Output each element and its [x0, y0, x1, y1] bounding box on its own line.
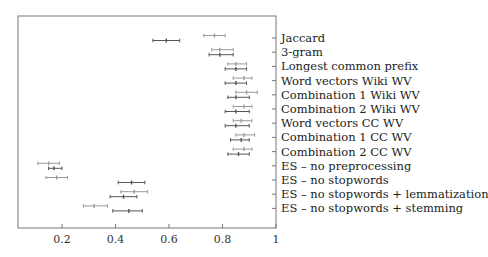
- error-bar: [225, 67, 246, 71]
- error-bar: [110, 195, 137, 199]
- error-bar: [121, 190, 148, 194]
- category-label: Jaccard: [280, 31, 326, 45]
- category-label: Word vectors Wiki WV: [281, 74, 412, 88]
- error-bar: [46, 176, 67, 180]
- error-bar: [153, 39, 180, 43]
- category-label: Longest common prefix: [281, 59, 419, 73]
- error-bar: [228, 152, 249, 156]
- error-bar: [38, 161, 59, 165]
- category-label: ES – no stopwords + lemmatization: [281, 187, 488, 201]
- error-bar: [233, 76, 252, 80]
- error-bar: [49, 166, 62, 170]
- x-tick-label: 0.8: [214, 233, 232, 246]
- error-bar: [204, 34, 225, 38]
- x-tick-label: 0.2: [53, 233, 71, 246]
- error-bars: [38, 34, 257, 213]
- category-label: ES – no stopwords: [281, 173, 389, 187]
- category-label: Combination 1 CC WV: [281, 130, 412, 144]
- x-tick-label: 1: [273, 233, 280, 246]
- plot-frame: [18, 16, 276, 228]
- error-bar-chart: 0.20.40.60.81 Jaccard3-gramLongest commo…: [0, 0, 488, 257]
- x-tick-label: 0.6: [160, 233, 178, 246]
- category-label: Combination 2 Wiki WV: [281, 102, 421, 116]
- error-bar: [236, 90, 257, 94]
- error-bar: [225, 110, 249, 114]
- category-label: ES – no preprocessing: [281, 159, 412, 173]
- error-bar: [233, 119, 252, 123]
- error-bar: [228, 95, 249, 99]
- error-bar: [225, 81, 246, 85]
- error-bar: [231, 138, 250, 142]
- category-label: ES – no stopwords + stemming: [281, 201, 464, 215]
- error-bar: [209, 53, 233, 57]
- error-bar: [118, 181, 145, 185]
- category-label: Word vectors CC WV: [281, 116, 404, 130]
- error-bar: [236, 133, 255, 137]
- category-label: Combination 2 CC WV: [281, 145, 412, 159]
- error-bar: [233, 105, 252, 109]
- category-label: Combination 1 Wiki WV: [281, 88, 421, 102]
- error-bar: [225, 124, 249, 128]
- x-tick-label: 0.4: [107, 233, 125, 246]
- error-bar: [83, 204, 107, 208]
- x-axis: 0.20.40.60.81: [53, 224, 279, 246]
- y-axis-labels: Jaccard3-gramLongest common prefixWord v…: [272, 31, 488, 215]
- error-bar: [113, 209, 142, 213]
- error-bar: [233, 147, 252, 151]
- error-bar: [212, 48, 233, 52]
- category-label: 3-gram: [281, 45, 323, 59]
- error-bar: [228, 62, 247, 66]
